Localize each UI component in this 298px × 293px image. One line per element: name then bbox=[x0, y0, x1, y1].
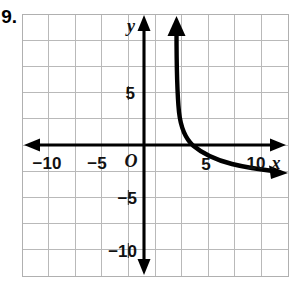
x-tick-label-5: 5 bbox=[201, 155, 210, 174]
origin-label: O bbox=[125, 151, 138, 171]
tick-labels: −10 −5 5 10 5 −5 −10 O x y bbox=[33, 16, 281, 261]
x-axis-left-arrowhead bbox=[24, 139, 40, 152]
y-axis-label: y bbox=[125, 16, 136, 36]
x-tick-label-10: 10 bbox=[247, 154, 266, 173]
coordinate-plane-graph: −10 −5 5 10 5 −5 −10 O x y bbox=[0, 0, 298, 293]
x-tick-label-neg10: −10 bbox=[33, 154, 62, 173]
y-tick-label-5: 5 bbox=[126, 84, 135, 103]
y-tick-label-neg5: −5 bbox=[118, 189, 137, 208]
curve-up-arrowhead bbox=[168, 16, 186, 36]
y-axis-bottom-arrowhead bbox=[138, 259, 151, 275]
figure-container: 9. bbox=[0, 0, 298, 293]
y-axis-top-arrowhead bbox=[138, 15, 151, 31]
x-axis-right-arrowhead bbox=[270, 139, 286, 152]
x-axis-label: x bbox=[271, 153, 281, 173]
x-tick-label-neg5: −5 bbox=[87, 154, 106, 173]
y-tick-label-neg10: −10 bbox=[108, 242, 137, 261]
